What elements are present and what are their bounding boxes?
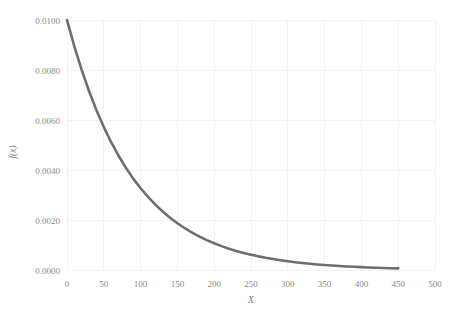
- x-tick-label: 400: [355, 279, 369, 289]
- x-tick-label: 450: [391, 279, 405, 289]
- y-tick-label: 0.0020: [35, 216, 60, 226]
- y-tick-label: 0.0100: [35, 16, 60, 26]
- x-tick-label: 300: [281, 279, 295, 289]
- y-tick-label: 0.0000: [35, 266, 60, 276]
- x-axis-title: X: [247, 295, 255, 305]
- y-tick-label: 0.0060: [35, 116, 60, 126]
- x-tick-label: 500: [428, 279, 442, 289]
- x-tick-label: 150: [171, 279, 185, 289]
- x-tick-label: 350: [318, 279, 332, 289]
- x-tick-label: 250: [244, 279, 258, 289]
- exponential-decay-chart: 0.0100 0.0080 0.0060 0.0040 0.0020 0.000…: [0, 0, 462, 316]
- chart-figure: 0.0100 0.0080 0.0060 0.0040 0.0020 0.000…: [0, 0, 462, 316]
- x-tick-label: 100: [134, 279, 148, 289]
- x-tick-label: 200: [207, 279, 221, 289]
- y-tick-label: 0.0040: [35, 166, 60, 176]
- y-tick-label: 0.0080: [35, 66, 60, 76]
- x-tick-label: 50: [99, 279, 109, 289]
- y-axis-title: f(x): [8, 145, 19, 158]
- x-tick-label: 0: [65, 279, 70, 289]
